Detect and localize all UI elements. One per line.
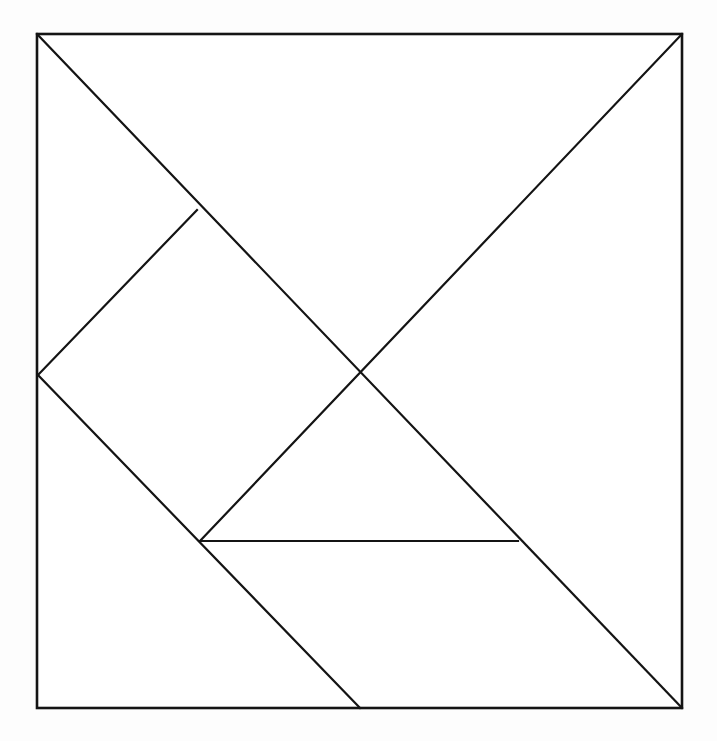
- tangram-diagram: [0, 0, 717, 741]
- figure-root: [0, 0, 717, 741]
